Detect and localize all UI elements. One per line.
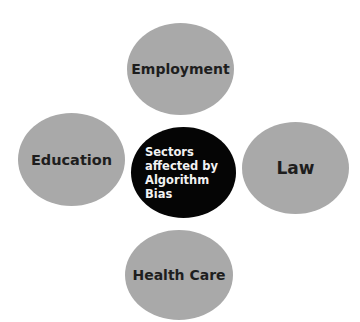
node-employment-label: Employment [131, 61, 229, 77]
node-health-care: Health Care [125, 230, 233, 320]
node-education-label: Education [31, 152, 112, 168]
center-hub-label: Sectors affected by Algorithm Bias [145, 145, 218, 201]
node-law-label: Law [276, 158, 314, 178]
node-law: Law [242, 122, 349, 214]
node-employment: Employment [127, 23, 234, 115]
node-health-care-label: Health Care [132, 267, 225, 283]
node-education: Education [18, 113, 125, 206]
center-hub: Sectors affected by Algorithm Bias [131, 127, 236, 218]
